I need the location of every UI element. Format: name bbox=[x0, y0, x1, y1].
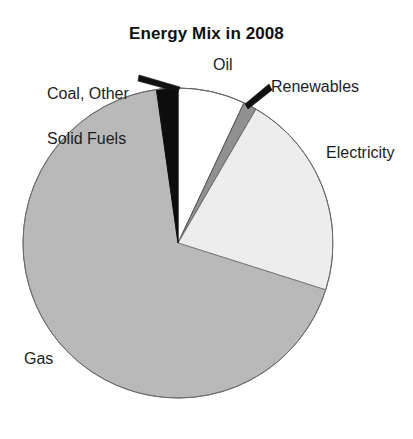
leader-line-renewables bbox=[245, 84, 272, 109]
slice-label-coal-line2: Solid Fuels bbox=[47, 131, 129, 146]
slice-label-gas: Gas bbox=[24, 351, 53, 366]
slice-label-oil: Oil bbox=[213, 57, 233, 72]
pie-chart-figure: Energy Mix in 2008 Coal, Other Solid Fue… bbox=[0, 0, 413, 439]
slice-label-renewables: Renewables bbox=[271, 79, 359, 94]
slice-label-electricity: Electricity bbox=[326, 145, 394, 160]
slice-label-coal: Coal, Other Solid Fuels bbox=[47, 56, 129, 176]
slice-label-coal-line1: Coal, Other bbox=[47, 86, 129, 101]
